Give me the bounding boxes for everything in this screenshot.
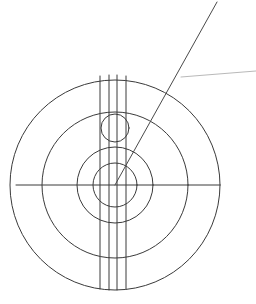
technical-drawing-svg <box>0 0 256 304</box>
diagonal-leader-line <box>115 2 217 185</box>
small-offset-circle <box>101 114 129 142</box>
drawing-canvas <box>0 0 256 304</box>
faint-annotation-line <box>181 71 256 77</box>
